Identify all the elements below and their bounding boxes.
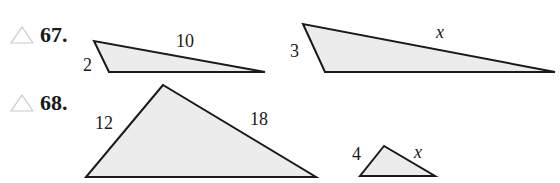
side-label: x xyxy=(414,143,422,161)
triangle-68b xyxy=(360,146,435,176)
side-label: 12 xyxy=(95,114,113,132)
side-label: 18 xyxy=(250,110,268,128)
triangle-67b xyxy=(303,24,555,72)
triangle-68a xyxy=(86,85,316,177)
side-label: 2 xyxy=(83,56,92,74)
side-label: 4 xyxy=(352,145,361,163)
side-label: 3 xyxy=(290,42,299,60)
side-label: 10 xyxy=(176,32,194,50)
side-label: x xyxy=(436,23,444,41)
triangle-figures xyxy=(0,0,560,183)
